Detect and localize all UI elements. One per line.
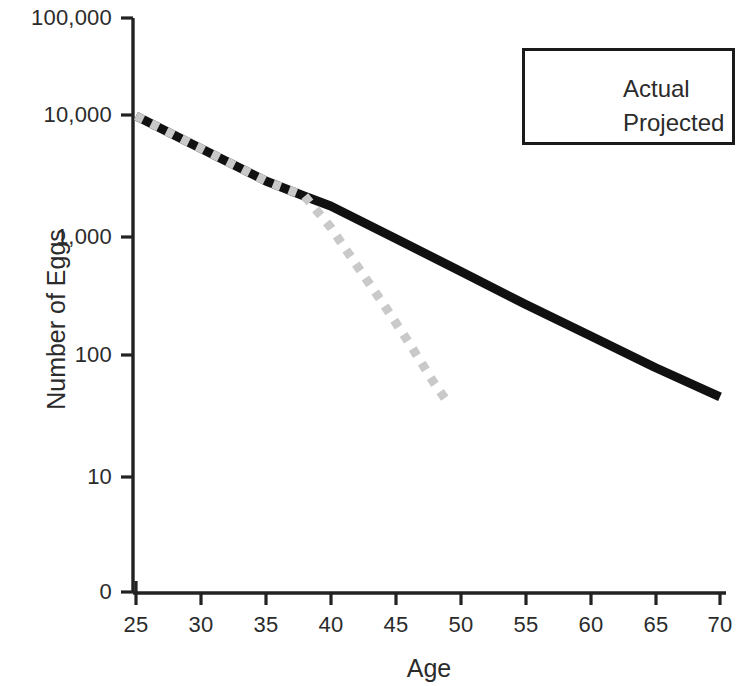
x-tick-label-30: 30 (189, 612, 214, 638)
legend-label-projected: Projected (623, 109, 724, 137)
chart-figure: 100,000 10,000 1,000 100 10 0 25 30 35 4… (0, 0, 739, 686)
x-tick-label-35: 35 (254, 612, 279, 638)
y-tick-label-0: 0 (0, 579, 112, 605)
x-tick-label-25: 25 (124, 612, 149, 638)
x-tick-label-65: 65 (644, 612, 669, 638)
y-tick-label-10000: 10,000 (0, 102, 112, 128)
x-tick-label-60: 60 (579, 612, 604, 638)
x-tick-label-50: 50 (449, 612, 474, 638)
x-axis-title: Age (133, 654, 725, 683)
series-layer (136, 116, 720, 402)
legend-item-projected[interactable]: Projected (525, 106, 732, 140)
y-axis-title: Number of Eggs (42, 170, 71, 470)
legend: Actual Projected (522, 48, 735, 145)
x-tick-label-55: 55 (514, 612, 539, 638)
series-line-projected (136, 116, 447, 402)
series-line-actual (136, 116, 720, 397)
solid-line-swatch (541, 82, 607, 96)
x-tick-label-40: 40 (319, 612, 344, 638)
y-tick-label-100000: 100,000 (0, 5, 112, 31)
legend-label-actual: Actual (623, 75, 690, 103)
x-tick-label-70: 70 (708, 612, 733, 638)
x-tick-label-45: 45 (384, 612, 409, 638)
dotted-line-swatch (541, 116, 607, 130)
legend-item-actual[interactable]: Actual (525, 72, 732, 106)
y-tick-marks (121, 18, 133, 592)
